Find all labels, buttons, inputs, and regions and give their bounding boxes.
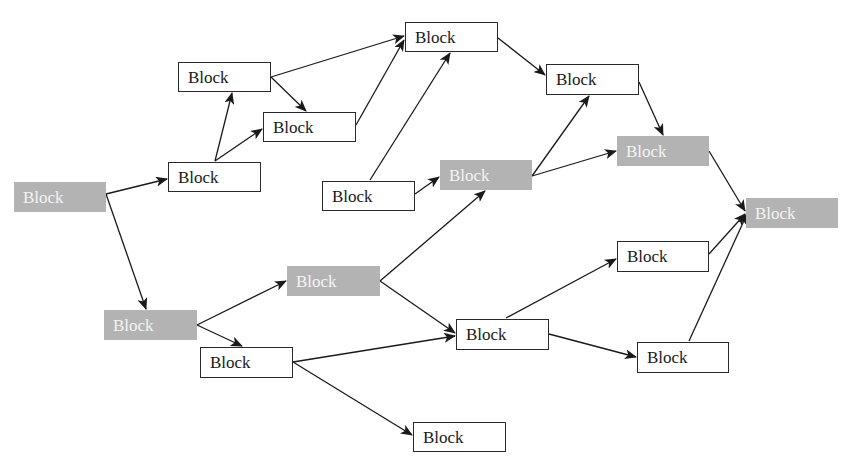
block-node-b16[interactable]: Block: [637, 342, 729, 373]
block-node-b10[interactable]: Block: [746, 198, 838, 228]
block-label: Block: [627, 248, 668, 265]
edge-b7-to-b8: [532, 96, 589, 176]
edge-b13-to-b17: [293, 362, 412, 435]
block-node-b3[interactable]: Block: [263, 112, 356, 142]
block-node-b14[interactable]: Block: [456, 319, 549, 350]
edge-b7-to-b9: [532, 151, 616, 176]
block-node-b1[interactable]: Block: [14, 182, 106, 212]
edge-b1-to-b4: [106, 179, 167, 194]
edge-b8-to-b9: [639, 82, 663, 135]
block-label: Block: [332, 188, 373, 205]
edge-b5-to-b8: [498, 38, 545, 75]
block-label: Block: [23, 189, 64, 206]
block-label: Block: [178, 169, 219, 186]
edge-b2-to-b5: [271, 36, 404, 77]
edge-b13-to-b14: [293, 336, 455, 362]
edge-b9-to-b10: [709, 151, 745, 211]
block-node-b2[interactable]: Block: [178, 62, 271, 92]
block-node-b8[interactable]: Block: [546, 64, 639, 95]
block-label: Block: [647, 349, 688, 366]
block-node-b7[interactable]: Block: [440, 160, 532, 190]
block-label: Block: [755, 205, 796, 222]
block-node-b15[interactable]: Block: [617, 241, 709, 272]
edge-b3-to-b5: [356, 40, 404, 125]
edge-b11-to-b14: [380, 281, 455, 333]
block-label: Block: [449, 167, 490, 184]
block-node-b5[interactable]: Block: [405, 22, 498, 52]
block-node-b11[interactable]: Block: [287, 266, 380, 296]
block-label: Block: [188, 69, 229, 86]
block-label: Block: [626, 143, 667, 160]
block-node-b17[interactable]: Block: [413, 422, 506, 452]
edge-b15-to-b10: [709, 214, 745, 254]
edge-b14-to-b15: [506, 259, 616, 318]
edge-b6-to-b7: [415, 177, 439, 194]
block-node-b4[interactable]: Block: [168, 162, 261, 192]
block-label: Block: [423, 429, 464, 446]
block-label: Block: [466, 326, 507, 343]
block-node-b9[interactable]: Block: [617, 136, 709, 166]
edge-b14-to-b16: [549, 334, 636, 357]
edge-b12-to-b11: [197, 281, 286, 325]
edge-b6-to-b5: [370, 53, 450, 180]
block-label: Block: [273, 119, 314, 136]
edge-layer: [0, 0, 849, 472]
block-label: Block: [113, 317, 154, 334]
edge-b16-to-b10: [689, 214, 747, 341]
edge-b2-to-b3: [271, 77, 306, 111]
block-label: Block: [415, 29, 456, 46]
block-label: Block: [556, 71, 597, 88]
block-label: Block: [296, 273, 337, 290]
block-node-b13[interactable]: Block: [200, 347, 293, 378]
edge-b12-to-b13: [197, 325, 242, 346]
block-label: Block: [210, 354, 251, 371]
block-node-b12[interactable]: Block: [104, 310, 197, 340]
block-node-b6[interactable]: Block: [322, 181, 415, 211]
edge-b1-to-b12: [106, 194, 146, 309]
flow-diagram: Block Block Block Block Block Block Bloc…: [0, 0, 849, 472]
